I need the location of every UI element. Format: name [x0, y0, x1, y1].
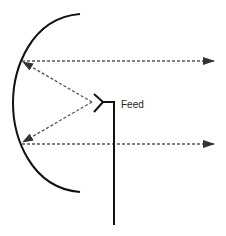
feed-label: Feed — [121, 99, 144, 110]
antenna-diagram: Feed — [0, 0, 226, 236]
feed-horn — [94, 94, 103, 112]
feed-line — [103, 102, 114, 225]
ray-feed-to-top — [23, 62, 92, 102]
reflector-dish — [13, 14, 80, 192]
ray-feed-to-bottom — [23, 102, 92, 142]
